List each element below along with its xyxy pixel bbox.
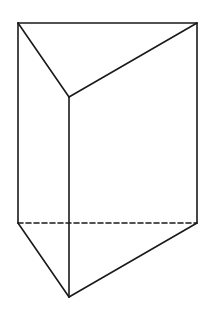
- triangular-prism-diagram: [0, 0, 212, 326]
- edge: [18, 23, 69, 97]
- edge: [69, 23, 197, 97]
- edge: [18, 223, 69, 297]
- visible-edges: [18, 23, 197, 297]
- edge: [69, 223, 197, 297]
